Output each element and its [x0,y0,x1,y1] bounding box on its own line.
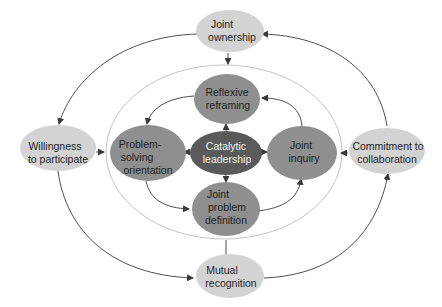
node-label: collaboration [357,153,417,165]
node-joint-inquiry: Joint inquiry [267,126,337,180]
node-label: problem [208,201,246,213]
node-catalytic-leadership: Catalytic leadership [190,131,262,175]
arrow-problem-solving-to-definition [146,181,189,209]
node-label: Joint [211,18,233,30]
node-label: Problem- [119,138,162,150]
node-label: Catalytic [206,140,246,152]
node-commitment: Commitment to collaboration [349,128,425,174]
node-label: solving [121,151,154,163]
node-mutual-recognition: Mutual recognition [196,254,264,298]
node-problem-solving: Problem- solving orientation [110,125,186,181]
node-label: leadership [203,153,252,165]
collaboration-cycle-diagram: Joint ownership Willingness to participa… [0,0,442,307]
node-joint-problem-definition: Joint problem definition [192,182,260,236]
node-label: Joint [290,139,312,151]
node-label: reframing [206,99,251,111]
arrow-inquiry-to-reframing [262,98,302,126]
arrow-reframing-to-problem-solving [147,96,194,124]
node-label: Willingness [28,140,81,152]
node-label: Joint [207,188,229,200]
node-joint-ownership: Joint ownership [196,10,264,52]
node-willingness: Willingness to participate [20,125,96,171]
node-label: recognition [205,277,257,289]
node-label: inquiry [289,152,321,164]
arrow-ownership-to-willingness [59,34,198,124]
node-label: to participate [28,153,88,165]
arrow-definition-to-inquiry [258,179,301,211]
node-label: Mutual [206,264,238,276]
arrow-willingness-to-mutual [58,171,193,278]
node-label: ownership [208,31,256,43]
node-reflexive-reframing: Reflexive reframing [194,74,260,124]
node-label: orientation [123,164,172,176]
arrow-mutual-to-commitment [264,174,388,278]
arrow-commitment-to-ownership [262,34,387,126]
node-label: Reflexive [205,86,248,98]
node-label: Commitment to [352,140,423,152]
node-label: definition [205,214,247,226]
